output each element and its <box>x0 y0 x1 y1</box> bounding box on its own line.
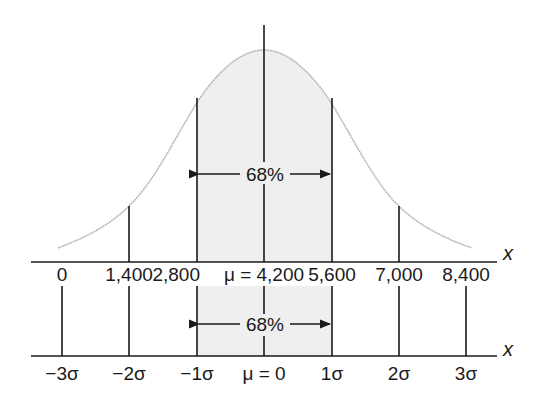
interval-label-upper: 68% <box>246 164 284 185</box>
tick-label-lower: −1σ <box>180 363 214 384</box>
shaded-68-region-upper <box>58 50 472 262</box>
axis-label-lower: x <box>502 338 514 360</box>
tick-label-lower: −3σ <box>45 363 79 384</box>
upper-panel: 68% x 0 1,400 2,800 μ = 4,200 5,600 7,00… <box>31 25 514 285</box>
interval-label-lower: 68% <box>246 314 284 335</box>
tick-label-upper: 5,600 <box>308 264 356 285</box>
normal-distribution-figure: 68% x 0 1,400 2,800 μ = 4,200 5,600 7,00… <box>0 0 540 403</box>
lower-panel: 68% x −3σ −2σ −1σ μ = 0 1σ 2σ 3σ <box>31 286 514 384</box>
tick-label-upper: 0 <box>57 264 68 285</box>
tick-label-lower: −2σ <box>112 363 146 384</box>
axis-label-upper: x <box>502 242 514 264</box>
tick-label-upper: μ = 4,200 <box>224 264 304 285</box>
tick-label-lower: μ = 0 <box>242 363 285 384</box>
tick-label-lower: 1σ <box>321 363 344 384</box>
tick-label-upper: 7,000 <box>375 264 423 285</box>
tick-label-upper: 2,800 <box>152 264 200 285</box>
tick-label-lower: 3σ <box>455 363 478 384</box>
tick-label-upper: 8,400 <box>442 264 490 285</box>
tick-label-lower: 2σ <box>388 363 411 384</box>
tick-label-upper: 1,400 <box>105 264 153 285</box>
